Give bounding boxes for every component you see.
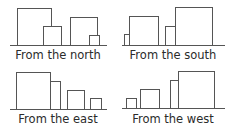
caption-from-north: From the north <box>15 48 101 62</box>
building-blocks <box>125 8 213 46</box>
caption-from-south: From the south <box>130 48 217 62</box>
building-blocks <box>18 9 100 46</box>
building-views-diagram: From the north From the south From the e… <box>0 0 230 129</box>
panel-from-east: From the east <box>10 73 107 127</box>
building-block <box>179 72 215 109</box>
building-block <box>68 91 85 110</box>
panel-from-north: From the north <box>10 9 107 63</box>
building-block <box>51 82 61 110</box>
building-block <box>166 27 176 46</box>
building-block <box>17 73 51 110</box>
building-block <box>90 36 100 46</box>
building-block <box>91 99 102 110</box>
building-block <box>127 99 137 109</box>
building-blocks <box>127 72 215 109</box>
panel-from-south: From the south <box>122 8 225 63</box>
caption-from-west: From the west <box>132 112 214 126</box>
building-block <box>130 17 159 46</box>
building-blocks <box>17 73 102 110</box>
caption-from-east: From the east <box>18 112 98 126</box>
panel-from-west: From the west <box>122 72 225 127</box>
building-block <box>125 35 130 46</box>
building-block <box>141 90 160 109</box>
building-block <box>44 27 62 46</box>
building-block <box>176 8 213 46</box>
